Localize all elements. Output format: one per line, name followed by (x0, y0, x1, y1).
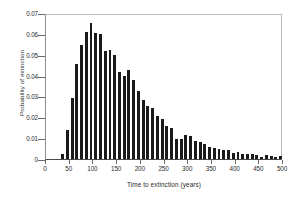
bar (213, 148, 216, 159)
bar (137, 91, 140, 159)
y-tick-label: 0.05 (2, 52, 38, 59)
x-tick-mark (187, 160, 188, 164)
y-tick-mark (38, 14, 45, 15)
bar (80, 45, 83, 159)
y-tick-label: 0 (2, 156, 38, 163)
bar (61, 154, 64, 159)
bar (66, 130, 69, 159)
bar (203, 144, 206, 159)
bar (170, 128, 173, 159)
bar (109, 50, 112, 160)
figure-container: Probability of extinction 00.010.020.030… (0, 0, 295, 201)
x-tick-mark (164, 160, 165, 164)
bar (251, 154, 254, 159)
y-tick-mark (38, 97, 45, 98)
x-tick-mark (116, 160, 117, 164)
bar (118, 72, 121, 159)
page-margin (0, 196, 295, 201)
x-tick-mark (140, 160, 141, 164)
bar (127, 70, 130, 159)
bar (208, 147, 211, 160)
bar (265, 155, 268, 159)
y-tick-label: 0.04 (2, 73, 38, 80)
bar (180, 139, 183, 159)
bar (132, 80, 135, 159)
bar (232, 153, 235, 159)
bar (199, 142, 202, 159)
plot-area (45, 14, 282, 160)
y-tick-mark (38, 35, 45, 36)
y-tick-label: 0.07 (2, 10, 38, 17)
x-tick-mark (69, 160, 70, 164)
x-tick-mark (45, 160, 46, 164)
bar (99, 34, 102, 159)
bar (71, 98, 74, 159)
bar (255, 155, 258, 159)
bar (222, 150, 225, 159)
bar (227, 150, 230, 159)
bar (151, 108, 154, 159)
bar (104, 51, 107, 159)
y-tick-label: 0.01 (2, 135, 38, 142)
y-tick-mark (38, 160, 45, 161)
x-tick-mark (211, 160, 212, 164)
bar (113, 55, 116, 159)
x-tick-label: 500 (267, 165, 295, 172)
bar (241, 154, 244, 159)
bar (75, 64, 78, 159)
y-tick-mark (38, 139, 45, 140)
bar (156, 116, 159, 159)
bar (194, 141, 197, 159)
bar (146, 106, 149, 159)
bar (246, 154, 249, 159)
bar (260, 157, 263, 160)
bar (189, 136, 192, 159)
bar (175, 139, 178, 159)
bar (184, 135, 187, 159)
bar (90, 23, 93, 159)
x-tick-mark (235, 160, 236, 164)
x-tick-mark (92, 160, 93, 164)
y-tick-mark (38, 56, 45, 57)
y-tick-label: 0.03 (2, 93, 38, 100)
x-tick-mark (282, 160, 283, 164)
y-tick-label: 0.02 (2, 114, 38, 121)
x-tick-mark (258, 160, 259, 164)
bar-series (46, 15, 281, 159)
bar (142, 100, 145, 159)
bar (279, 156, 282, 159)
bar (85, 32, 88, 159)
y-tick-mark (38, 118, 45, 119)
bar (274, 157, 277, 160)
y-tick-label: 0.06 (2, 31, 38, 38)
bar (161, 119, 164, 159)
bar (218, 149, 221, 159)
bar (123, 76, 126, 159)
bar (237, 152, 240, 159)
x-axis-title: Time to extinction (years) (45, 181, 283, 188)
bar (165, 126, 168, 159)
y-tick-mark (38, 77, 45, 78)
bar (270, 156, 273, 159)
bar (94, 33, 97, 159)
